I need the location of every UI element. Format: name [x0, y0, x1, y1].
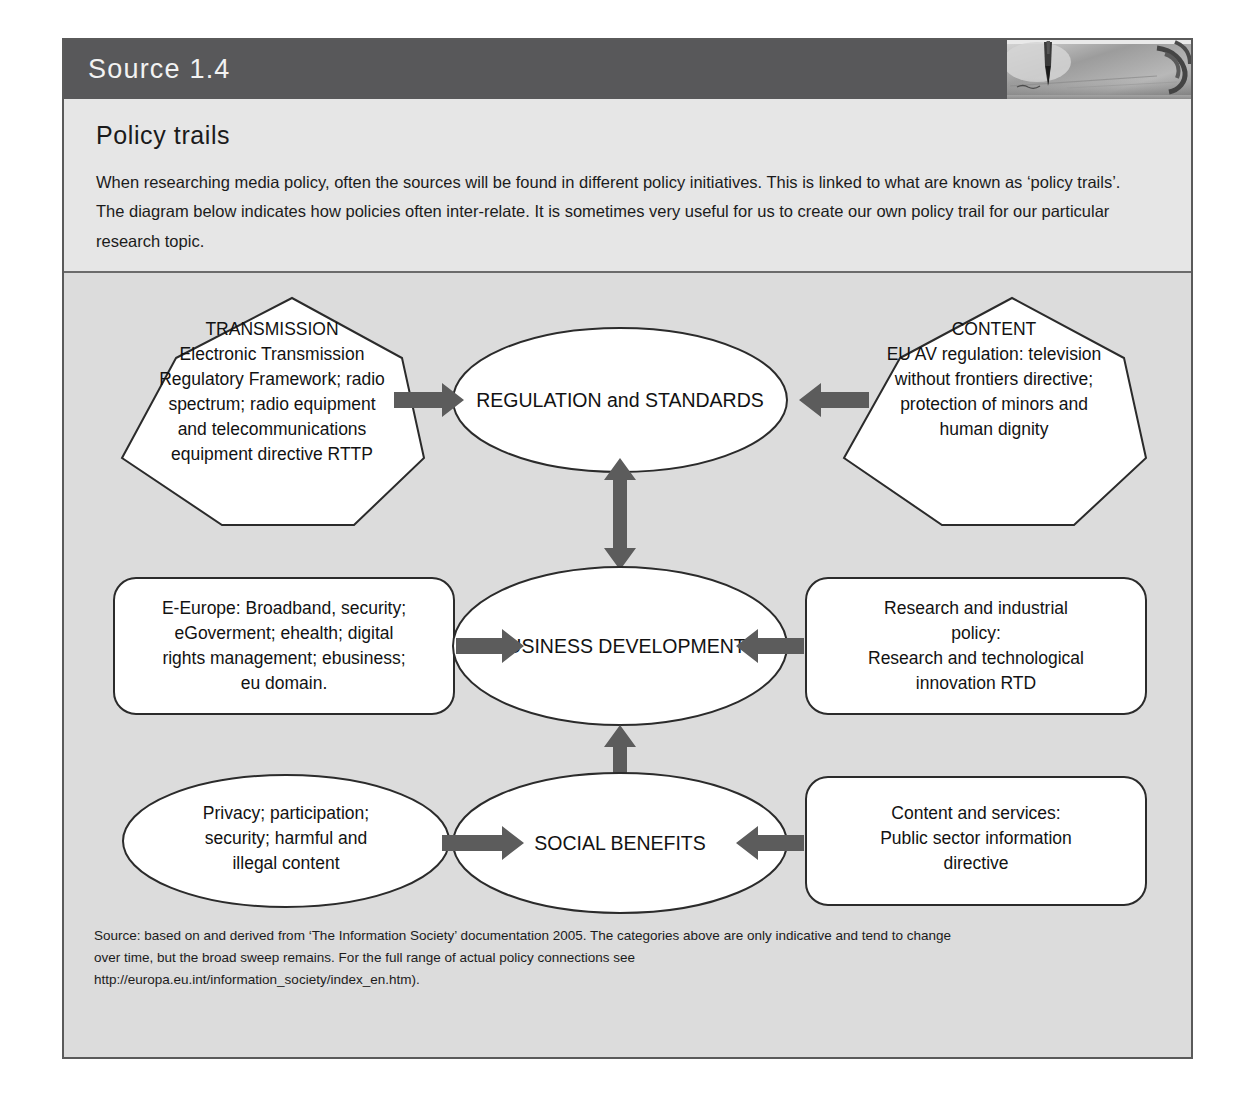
- connector-content-to-regulation: [799, 383, 869, 417]
- intro-section: Policy trails When researching media pol…: [64, 99, 1191, 256]
- source-header-band: Source 1.4: [64, 40, 1191, 99]
- node-e-europe-line-0: E-Europe: Broadband, security;: [162, 598, 406, 618]
- node-content-line-4: human dignity: [940, 419, 1049, 439]
- node-content-line-2: without frontiers directive;: [894, 369, 1093, 389]
- node-privacy-line-2: illegal content: [232, 853, 339, 873]
- node-social-benefits-label: SOCIAL BENEFITS: [534, 832, 706, 854]
- node-content-line-3: protection of minors and: [900, 394, 1088, 414]
- node-content-services-line-0: Content and services:: [891, 803, 1060, 823]
- node-research-line-3: innovation RTD: [916, 673, 1036, 693]
- node-regulation-and-standards: REGULATION and STANDARDS: [453, 328, 787, 472]
- policy-trails-diagram: .shp { fill: #ffffff; stroke: #2b2b2b; s…: [64, 271, 1191, 1057]
- node-transmission: TRANSMISSION Electronic Transmission Reg…: [122, 298, 424, 525]
- node-regulation-label: REGULATION and STANDARDS: [476, 389, 764, 411]
- node-content-line-0: CONTENT: [952, 319, 1037, 339]
- connector-regulation-to-business: [604, 458, 636, 570]
- page-title: Source 1.4: [64, 54, 231, 85]
- node-e-europe-line-2: rights management; ebusiness;: [162, 648, 405, 668]
- node-transmission-line-2: Regulatory Framework; radio: [159, 369, 385, 389]
- node-transmission-line-4: and telecommunications: [178, 419, 367, 439]
- page-root: { "header": { "title": "Source 1.4", "ph…: [0, 0, 1241, 1120]
- source-box: Source 1.4: [62, 38, 1193, 1059]
- node-transmission-line-3: spectrum; radio equipment: [168, 394, 375, 414]
- intro-paragraph: When researching media policy, often the…: [96, 168, 1151, 256]
- node-content-and-services: Content and services: Public sector info…: [806, 777, 1146, 905]
- node-research-industrial-policy: Research and industrial policy: Research…: [806, 578, 1146, 714]
- node-transmission-line-5: equipment directive RTTP: [171, 444, 373, 464]
- node-privacy-line-0: Privacy; participation;: [203, 803, 369, 823]
- node-e-europe-line-3: eu domain.: [241, 673, 328, 693]
- node-research-line-1: policy:: [951, 623, 1001, 643]
- node-research-line-2: Research and technological: [868, 648, 1084, 668]
- diagram-canvas: .shp { fill: #ffffff; stroke: #2b2b2b; s…: [64, 273, 1191, 918]
- node-content-line-1: EU AV regulation: television: [887, 344, 1102, 364]
- node-content: CONTENT EU AV regulation: television wit…: [844, 298, 1146, 525]
- source-footnote-line-1: Source: based on and derived from ‘The I…: [94, 925, 1154, 947]
- node-transmission-line-1: Electronic Transmission: [180, 344, 365, 364]
- node-privacy: Privacy; participation; security; harmfu…: [123, 775, 449, 907]
- source-footnote-line-3: http://europa.eu.int/information_society…: [94, 969, 1154, 991]
- source-footnote: Source: based on and derived from ‘The I…: [94, 925, 1154, 991]
- source-footnote-line-2: over time, but the broad sweep remains. …: [94, 947, 1154, 969]
- intro-title: Policy trails: [96, 121, 1159, 150]
- node-privacy-line-1: security; harmful and: [205, 828, 367, 848]
- node-transmission-line-0: TRANSMISSION: [205, 319, 338, 339]
- pen-writing-photo: [1007, 40, 1191, 99]
- node-research-line-0: Research and industrial: [884, 598, 1068, 618]
- node-e-europe-line-1: eGoverment; ehealth; digital: [175, 623, 394, 643]
- node-content-services-line-1: Public sector information: [880, 828, 1072, 848]
- node-content-services-line-2: directive: [943, 853, 1008, 873]
- node-e-europe: E-Europe: Broadband, security; eGovermen…: [114, 578, 454, 714]
- node-business-label: BUSINESS DEVELOPMENT: [494, 635, 745, 657]
